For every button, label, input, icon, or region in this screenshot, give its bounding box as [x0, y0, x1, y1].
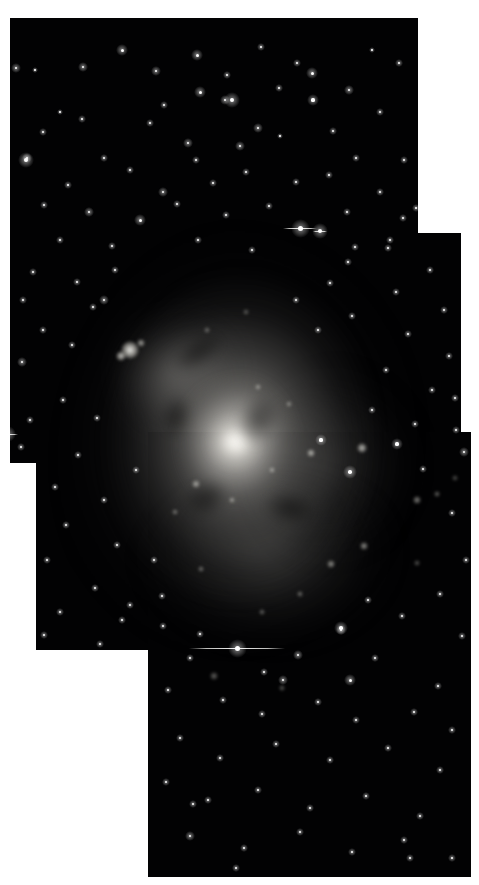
field-star	[401, 615, 403, 617]
field-star	[299, 831, 301, 833]
field-star	[309, 807, 311, 809]
field-star	[59, 111, 61, 113]
field-star	[371, 49, 373, 51]
field-star	[22, 299, 24, 301]
field-star	[365, 795, 367, 797]
hii-region-knot	[279, 685, 285, 691]
hii-region-knot	[255, 384, 261, 390]
field-star	[398, 62, 400, 64]
saturated-star	[298, 226, 303, 231]
field-star	[62, 399, 64, 401]
field-star	[103, 299, 106, 302]
mosaic-tile-bottom	[148, 432, 471, 877]
field-star	[199, 633, 201, 635]
field-star	[419, 815, 421, 817]
field-star	[197, 239, 199, 241]
field-star	[43, 204, 45, 206]
field-star	[129, 604, 131, 606]
field-star	[96, 417, 98, 419]
field-star	[282, 679, 285, 682]
field-star	[92, 306, 94, 308]
field-star	[414, 423, 416, 425]
field-star	[196, 54, 199, 57]
field-star	[261, 713, 263, 715]
hii-region-knot	[452, 475, 458, 481]
field-star	[355, 157, 357, 159]
field-star	[295, 181, 297, 183]
field-star	[317, 701, 319, 703]
hii-region-knot	[192, 480, 200, 488]
field-star	[139, 219, 142, 222]
field-star	[263, 671, 265, 673]
field-star	[439, 769, 441, 771]
field-star	[103, 499, 105, 501]
field-star	[354, 246, 356, 248]
field-star	[103, 157, 105, 159]
field-star	[295, 299, 297, 301]
field-star	[332, 130, 334, 132]
field-star	[59, 611, 61, 613]
field-star	[226, 74, 228, 76]
field-star	[76, 281, 78, 283]
field-star	[46, 559, 48, 561]
field-star	[379, 111, 381, 113]
field-star	[328, 174, 330, 176]
field-star	[429, 269, 431, 271]
hii-region-knot	[414, 560, 420, 566]
field-star	[187, 142, 190, 145]
field-star	[34, 69, 36, 71]
field-star	[451, 512, 453, 514]
field-star	[77, 454, 79, 456]
field-star	[195, 159, 197, 161]
hii-region-knot	[413, 496, 421, 504]
field-star	[165, 781, 167, 783]
field-star	[239, 145, 242, 148]
field-star	[278, 87, 280, 89]
hii-region-knot	[286, 401, 292, 407]
field-star	[65, 524, 67, 526]
field-star	[387, 247, 389, 249]
field-star	[415, 207, 417, 209]
field-star	[454, 397, 456, 399]
field-star	[296, 62, 298, 64]
field-star	[207, 799, 209, 801]
field-star	[349, 679, 352, 682]
hii-region-knot	[210, 672, 218, 680]
field-star	[257, 789, 259, 791]
field-star	[42, 131, 44, 133]
hii-region-knot	[172, 509, 178, 515]
field-star	[346, 211, 348, 213]
field-star	[219, 757, 221, 759]
hii-region-knot	[357, 443, 367, 453]
field-star	[54, 486, 56, 488]
hii-region-knot	[434, 491, 440, 497]
field-star	[163, 104, 165, 106]
field-star	[155, 70, 158, 73]
saturated-star	[235, 646, 240, 651]
field-star	[443, 309, 445, 311]
field-star	[179, 737, 181, 739]
field-star	[465, 559, 467, 561]
field-star	[176, 203, 178, 205]
field-star	[268, 205, 270, 207]
field-star	[24, 158, 28, 162]
dust-lane	[153, 432, 198, 444]
field-star	[20, 446, 22, 448]
field-star	[347, 261, 349, 263]
hii-region-knot	[243, 309, 249, 315]
field-star	[243, 847, 245, 849]
hii-region-knot	[116, 351, 126, 361]
field-star	[402, 217, 404, 219]
field-star	[371, 409, 373, 411]
field-star	[379, 191, 381, 193]
hii-region-knot	[307, 449, 315, 457]
field-star	[32, 271, 34, 273]
field-star	[71, 344, 73, 346]
field-star	[451, 729, 453, 731]
field-star	[114, 269, 116, 271]
dust-lane	[257, 485, 322, 531]
field-star	[82, 66, 85, 69]
field-star	[351, 315, 353, 317]
field-star	[403, 159, 405, 161]
field-star	[451, 857, 453, 859]
